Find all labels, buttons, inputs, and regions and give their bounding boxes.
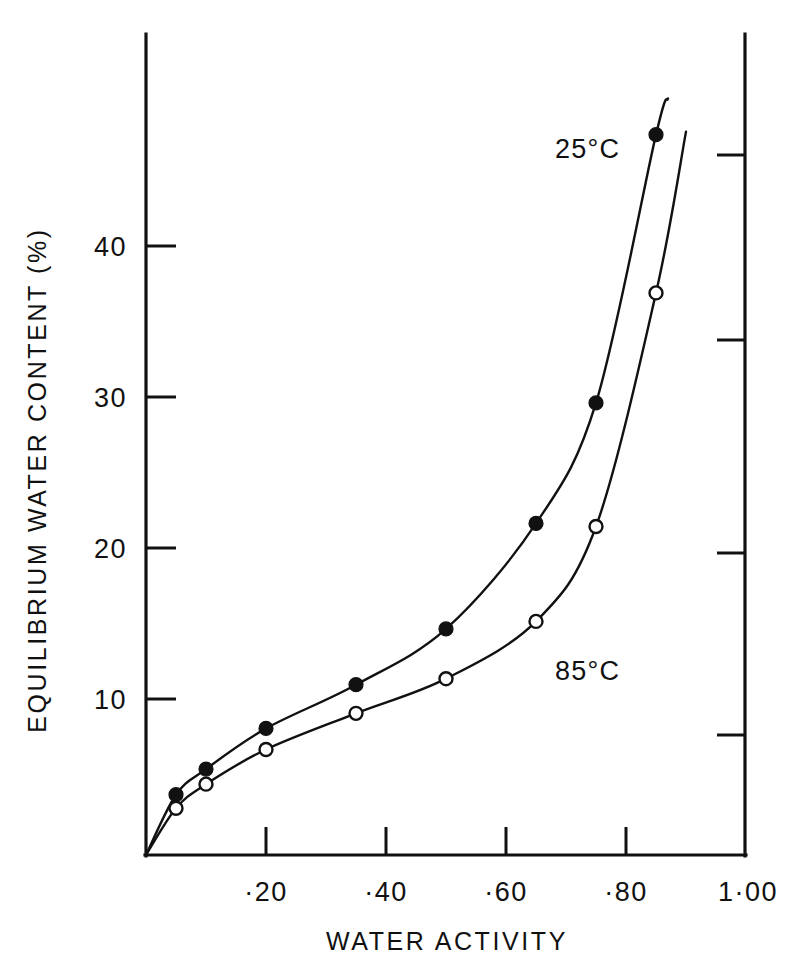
data-point-25c-7 [649, 128, 663, 142]
y-tick-label-20: 20 [94, 534, 127, 564]
chart-plot-area: 40 30 20 10 ·20 ·40 ·60 ·80 1·00 WATER A… [0, 0, 796, 965]
x-tick-label-60: ·60 [484, 877, 528, 907]
x-tick-label-20: ·20 [244, 877, 288, 907]
chart-figure: 40 30 20 10 ·20 ·40 ·60 ·80 1·00 WATER A… [0, 0, 796, 965]
x-axis-title: WATER ACTIVITY [326, 927, 568, 955]
data-point-25c-3 [349, 678, 363, 692]
x-tick-label-80: ·80 [604, 877, 648, 907]
right-axis-ticks [717, 155, 745, 735]
data-point-25c-2 [259, 721, 273, 735]
series-label-25c: 25°C [555, 134, 620, 164]
y-tick-label-10: 10 [94, 685, 127, 715]
data-point-85c-4 [440, 672, 453, 685]
y-tick-label-30: 30 [94, 383, 127, 413]
data-point-25c-1 [199, 762, 213, 776]
data-point-85c-0 [170, 802, 183, 815]
data-series-layer [146, 98, 686, 855]
y-axis-ticks [146, 246, 176, 699]
x-axis-ticks [266, 827, 626, 855]
curve-25c [146, 98, 668, 855]
data-point-25c-4 [439, 622, 453, 636]
data-point-85c-5 [530, 615, 543, 628]
y-tick-label-40: 40 [94, 232, 127, 262]
data-point-25c-0 [169, 788, 183, 802]
curve-85c [146, 132, 686, 855]
data-point-25c-5 [529, 516, 543, 530]
x-tick-label-100: 1·00 [718, 877, 778, 907]
data-point-25c-6 [589, 396, 603, 410]
y-axis-title: EQUILIBRIUM WATER CONTENT (%) [23, 227, 51, 733]
x-tick-label-40: ·40 [364, 877, 408, 907]
series-label-85c: 85°C [555, 656, 620, 686]
data-point-85c-6 [590, 520, 603, 533]
data-point-85c-7 [650, 286, 663, 299]
data-point-85c-3 [350, 707, 363, 720]
data-point-85c-1 [200, 778, 213, 791]
data-point-85c-2 [260, 743, 273, 756]
